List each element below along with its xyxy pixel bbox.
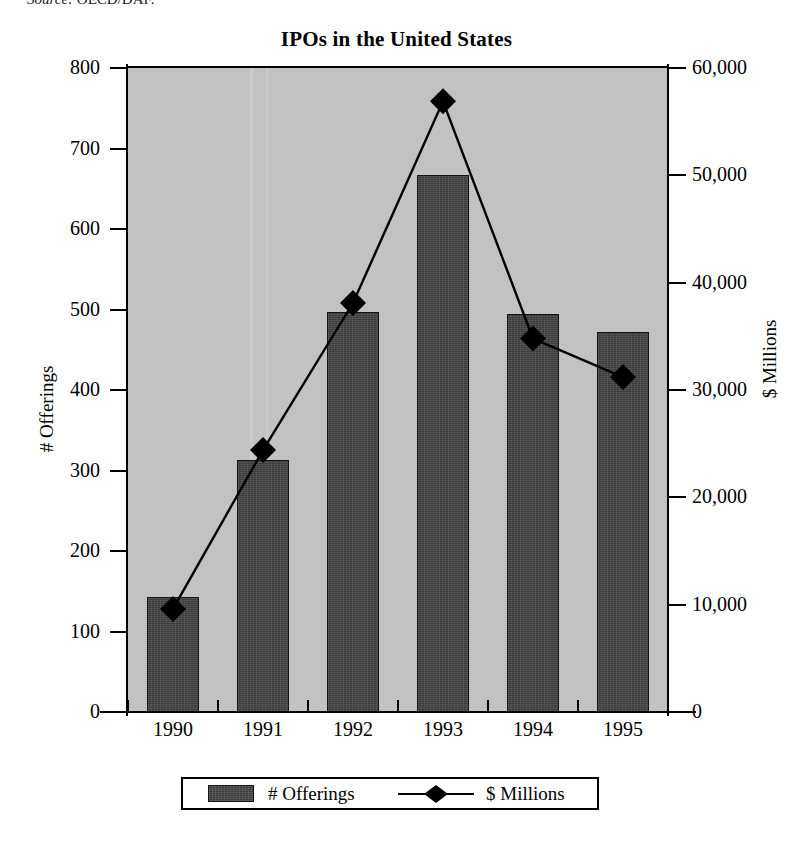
left-tick-400 [110,389,128,391]
left-tick-label-100: 100 [70,621,100,641]
right-tick-label-0: 0 [692,701,702,721]
left-tick-800 [110,67,128,69]
legend-entry-offerings: # Offerings [208,779,355,808]
legend-label-millions: $ Millions [486,783,565,805]
x-tick-1993 [397,700,399,713]
left-tick-200 [110,550,128,552]
source-note: Source: OECD/DAF. [27,0,154,8]
left-tick-300 [110,470,128,472]
x-tick-label-1990: 1990 [128,719,218,739]
right-tick-label-50000: 50,000 [692,164,747,184]
left-tick-label-600: 600 [70,218,100,238]
legend-label-offerings: # Offerings [268,783,355,805]
right-tick-0 [668,711,686,713]
left-tick-0 [110,711,128,713]
right-tick-label-60000: 60,000 [692,57,747,77]
legend-line-diamond-icon [398,785,474,803]
plot-inner [128,68,668,712]
left-tick-label-800: 800 [70,57,100,77]
top-axis-line [128,66,668,68]
chart-title: IPOs in the United States [0,27,793,52]
right-tick-40000 [668,282,686,284]
left-tick-100 [110,631,128,633]
data-marker-1991 [250,437,276,463]
right-tick-label-40000: 40,000 [692,272,747,292]
x-tick-label-1991: 1991 [218,719,308,739]
left-tick-label-300: 300 [70,460,100,480]
x-tick-label-1993: 1993 [398,719,488,739]
x-tick-1995 [577,700,579,713]
data-marker-1994 [520,325,546,351]
x-tick-1992 [307,700,309,713]
left-tick-label-0: 0 [90,701,100,721]
right-tick-30000 [668,389,686,391]
data-marker-1995 [610,364,636,390]
x-tick-end [667,700,669,713]
legend-bar-swatch-icon [208,785,254,802]
right-tick-60000 [668,67,686,69]
x-tick-label-1992: 1992 [308,719,398,739]
left-tick-500 [110,309,128,311]
plot-area [128,68,668,712]
x-tick-1990 [127,700,129,713]
left-tick-600 [110,228,128,230]
right-tick-label-30000: 30,000 [692,379,747,399]
source-label: Source: [27,0,73,7]
line-series-svg [128,68,668,712]
legend-entry-millions: $ Millions [398,779,565,808]
data-marker-1993 [430,88,456,114]
left-tick-label-200: 200 [70,540,100,560]
left-tick-700 [110,148,128,150]
x-tick-label-1994: 1994 [488,719,578,739]
left-tick-label-400: 400 [70,379,100,399]
source-body: OECD/DAF. [73,0,154,7]
data-marker-1992 [340,290,366,316]
right-tick-20000 [668,496,686,498]
right-axis-title: $ Millions [759,279,781,439]
right-tick-label-20000: 20,000 [692,486,747,506]
left-tick-label-700: 700 [70,138,100,158]
left-tick-label-500: 500 [70,299,100,319]
line-path-millions [173,101,623,609]
x-tick-label-1995: 1995 [578,719,668,739]
chart-legend: # Offerings $ Millions [181,777,599,810]
x-tick-1994 [487,700,489,713]
right-tick-label-10000: 10,000 [692,594,747,614]
right-tick-50000 [668,174,686,176]
x-tick-1991 [217,700,219,713]
data-marker-1990 [160,596,186,622]
right-tick-10000 [668,604,686,606]
left-axis-title: # Offerings [36,329,58,489]
